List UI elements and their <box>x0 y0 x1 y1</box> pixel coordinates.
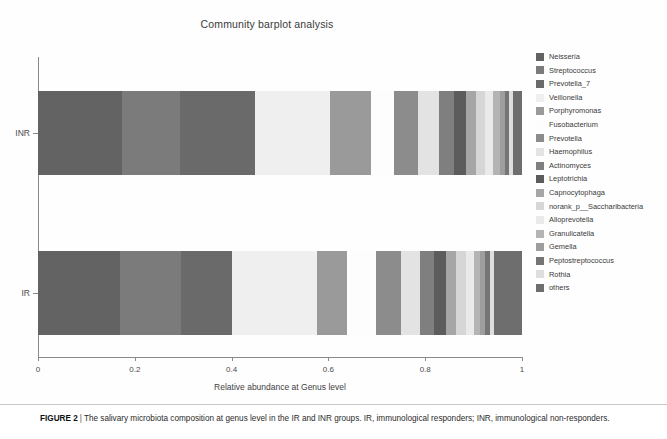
bar-segment <box>122 91 180 175</box>
legend-swatch-icon <box>536 66 544 74</box>
legend-label: Streptococcus <box>549 67 596 74</box>
bar-segment <box>394 91 418 175</box>
x-tick-mark <box>232 357 233 361</box>
legend-item[interactable]: Capnocytophaga <box>536 186 662 200</box>
bar-segment <box>456 251 466 335</box>
legend-item[interactable]: Prevotella_7 <box>536 77 662 91</box>
legend-label: Prevotella <box>549 135 582 142</box>
legend-item[interactable]: Neisseria <box>536 50 662 64</box>
bar-segment <box>476 91 485 175</box>
bar-segment <box>255 91 330 175</box>
figure-root: Community barplot analysis INRIR 00.20.4… <box>0 0 667 439</box>
bar-segment <box>376 251 401 335</box>
x-tick-label: 0.8 <box>420 365 431 374</box>
caption-bar: FIGURE 2|The salivary microbiota composi… <box>0 404 667 439</box>
bar-segment <box>420 251 434 335</box>
legend-item[interactable]: Granulicatella <box>536 227 662 241</box>
legend-swatch-icon <box>536 175 544 183</box>
bar-segment <box>120 251 181 335</box>
legend-item[interactable]: Streptococcus <box>536 64 662 78</box>
bar-segment <box>401 251 420 335</box>
y-tick-label-inr: INR <box>15 128 30 138</box>
legend-label: Prevotella_7 <box>549 80 590 87</box>
x-tick-label: 0.4 <box>226 365 237 374</box>
legend-swatch-icon <box>536 134 544 142</box>
x-tick-mark <box>135 357 136 361</box>
legend-label: Alloprevotella <box>549 216 593 223</box>
legend-label: Fusobacterium <box>549 121 598 128</box>
bar-ir <box>38 251 522 335</box>
legend-label: Porphyromonas <box>549 107 601 114</box>
legend-swatch-icon <box>536 270 544 278</box>
bar-segment <box>418 91 439 175</box>
legend-swatch-icon <box>536 243 544 251</box>
legend-swatch-icon <box>536 284 544 292</box>
legend-item[interactable]: norank_p__Saccharibacteria <box>536 200 662 214</box>
legend-item[interactable]: others <box>536 281 662 295</box>
legend-swatch-icon <box>536 121 544 129</box>
bar-segment <box>317 251 347 335</box>
bar-segment <box>485 91 493 175</box>
chart-title: Community barplot analysis <box>0 18 534 30</box>
legend-label: Rothia <box>549 271 570 278</box>
legend-item[interactable]: Fusobacterium <box>536 118 662 132</box>
plot-area: INRIR 00.20.40.60.81 Relative abundance … <box>38 57 522 357</box>
legend-item[interactable]: Peptostreptococcus <box>536 254 662 268</box>
x-tick-label: 0.6 <box>323 365 334 374</box>
legend-item[interactable]: Porphyromonas <box>536 104 662 118</box>
legend-item[interactable]: Veillonella <box>536 91 662 105</box>
legend-label: others <box>549 284 570 291</box>
bar-segment <box>38 91 122 175</box>
bar-segment <box>330 91 370 175</box>
bar-segment <box>494 251 522 335</box>
caption-text: The salivary microbiota composition at g… <box>84 414 610 423</box>
x-tick-label: 1 <box>520 365 524 374</box>
x-tick-label: 0.2 <box>129 365 140 374</box>
legend-swatch-icon <box>536 53 544 61</box>
legend-item[interactable]: Gemella <box>536 240 662 254</box>
bar-segment <box>466 251 474 335</box>
bar-segment <box>347 251 376 335</box>
legend-label: norank_p__Saccharibacteria <box>549 203 643 210</box>
legend-swatch-icon <box>536 202 544 210</box>
legend-item[interactable]: Haemophilus <box>536 145 662 159</box>
bar-segment <box>439 91 454 175</box>
x-tick-mark <box>328 357 329 361</box>
legend-item[interactable]: Leptotrichia <box>536 172 662 186</box>
legend-item[interactable]: Rothia <box>536 268 662 282</box>
legend-label: Granulicatella <box>549 230 594 237</box>
bar-segment <box>513 91 522 175</box>
legend-swatch-icon <box>536 216 544 224</box>
legend-label: Gemella <box>549 243 577 250</box>
bar-inr <box>38 91 522 175</box>
legend-label: Leptotrichia <box>549 175 587 182</box>
bar-segment <box>181 251 231 335</box>
legend-swatch-icon <box>536 148 544 156</box>
x-tick-label: 0 <box>36 365 40 374</box>
legend-label: Peptostreptococcus <box>549 257 614 264</box>
bar-segment <box>180 91 255 175</box>
legend-swatch-icon <box>536 257 544 265</box>
x-tick-mark <box>425 357 426 361</box>
caption-figure-label: FIGURE 2 <box>40 414 78 423</box>
x-axis-title: Relative abundance at Genus level <box>38 382 522 392</box>
legend-label: Capnocytophaga <box>549 189 605 196</box>
figure-image-panel: Community barplot analysis INRIR 00.20.4… <box>0 0 667 404</box>
legend-swatch-icon <box>536 230 544 238</box>
legend-label: Neisseria <box>549 53 580 60</box>
legend-item[interactable]: Prevotella <box>536 132 662 146</box>
bar-segment <box>232 251 317 335</box>
bar-segment <box>454 91 466 175</box>
legend-swatch-icon <box>536 107 544 115</box>
legend-item[interactable]: Alloprevotella <box>536 213 662 227</box>
legend-item[interactable]: Actinomyces <box>536 159 662 173</box>
bar-segment <box>38 251 120 335</box>
caption-separator: | <box>80 414 82 423</box>
legend-swatch-icon <box>536 94 544 102</box>
bar-segment <box>371 91 394 175</box>
bar-segment <box>434 251 446 335</box>
legend-swatch-icon <box>536 80 544 88</box>
legend: NeisseriaStreptococcusPrevotella_7Veillo… <box>536 50 662 295</box>
x-axis-line <box>38 357 522 358</box>
legend-label: Actinomyces <box>549 162 591 169</box>
